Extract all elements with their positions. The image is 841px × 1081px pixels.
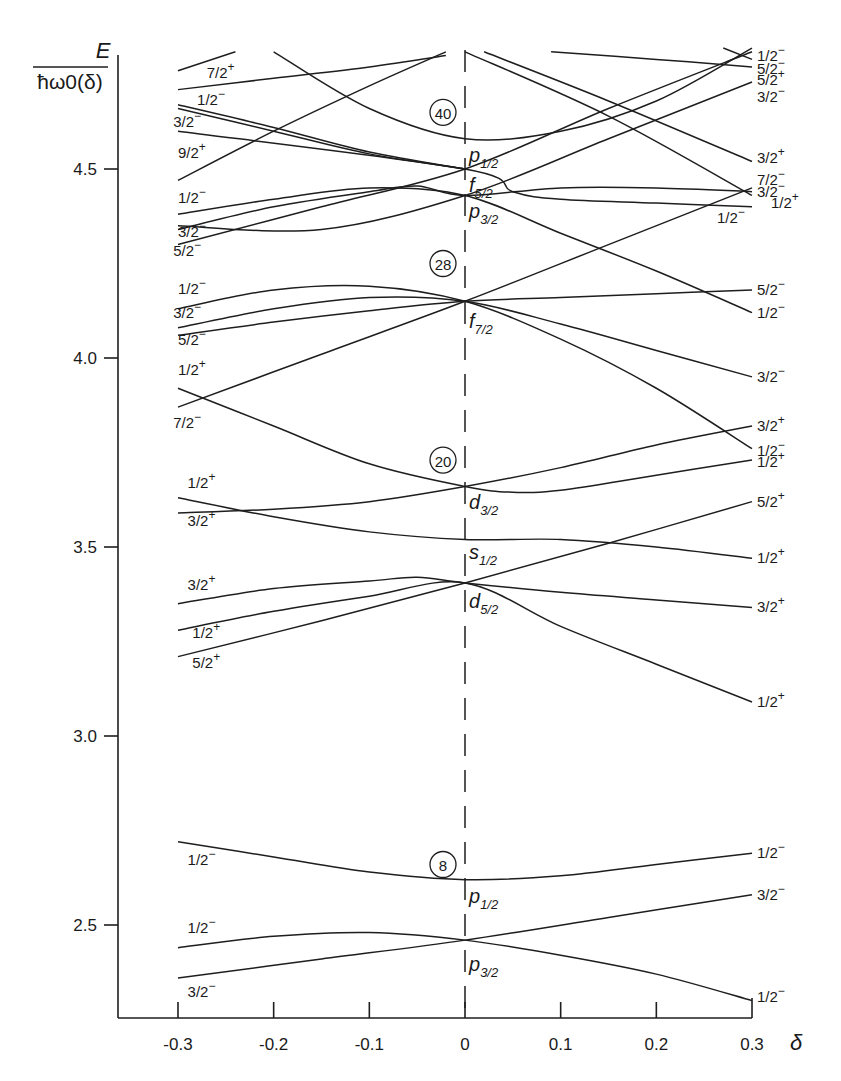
omega-label: 1/2−	[717, 205, 745, 226]
y-tick-label: 3.5	[73, 538, 97, 557]
omega-label: 1/2−	[757, 984, 785, 1005]
omega-label: 3/2−	[173, 109, 201, 130]
omega-label: 3/2−	[188, 979, 216, 1000]
y-tick-label: 3.0	[73, 727, 97, 746]
omega-label: 7/2+	[207, 60, 235, 81]
omega-label: 5/2−	[757, 277, 785, 298]
x-tick-label: 0.3	[740, 1035, 764, 1054]
y-axis-title: E ħω0(δ)	[33, 38, 111, 93]
omega-label: 1/2−	[757, 840, 785, 861]
orbital-label: d5/2	[469, 590, 499, 617]
y-tick-label: 4.0	[73, 349, 97, 368]
omega-label: 5/2−	[178, 327, 206, 348]
omega-label: 7/2−	[173, 410, 201, 431]
omega-label: 3/2−	[178, 219, 206, 240]
omega-label: 1/2+	[188, 470, 216, 491]
omega-label: 5/2−	[173, 238, 201, 259]
omega-label: 1/2−	[188, 915, 216, 936]
orbital-label: d3/2	[469, 491, 499, 518]
orbital-label: p3/2	[468, 953, 499, 980]
omega-label: 3/2+	[188, 508, 216, 529]
omega-label: 1/2+	[178, 357, 206, 378]
orbital-label: p1/2	[468, 885, 499, 912]
omega-label: 1/2−	[757, 300, 785, 321]
level-curve	[178, 109, 465, 169]
omega-label: 1/2+	[757, 689, 785, 710]
orbital-label: s1/2	[469, 541, 498, 568]
spherical-orbital-labels: p1/2p3/2d5/2s1/2d3/2f7/2p3/2f5/2p1/2	[468, 144, 499, 980]
y-tick-label: 4.5	[73, 160, 97, 179]
omega-label: 1/2−	[188, 847, 216, 868]
level-curve	[551, 52, 752, 67]
orbital-label: f7/2	[469, 310, 493, 337]
omega-label: 1/2+	[757, 449, 785, 470]
omega-label: 5/2+	[192, 650, 220, 671]
omega-label: 3/2+	[757, 594, 785, 615]
nilsson-diagram: E ħω0(δ) 2.53.03.54.04.5 -0.3-0.2-0.100.…	[0, 0, 841, 1081]
y-tick-label: 2.5	[73, 916, 97, 935]
omega-label: 5/2+	[757, 489, 785, 510]
omega-label: 9/2+	[178, 140, 206, 161]
omega-label: 3/2−	[757, 364, 785, 385]
omega-label: 3/2+	[757, 413, 785, 434]
omega-label: 1/2−	[178, 185, 206, 206]
omega-label: 1/2−	[178, 276, 206, 297]
y-axis-denominator: ħω0(δ)	[37, 70, 102, 93]
x-tick-label: -0.2	[259, 1035, 288, 1054]
omega-label: 1/2+	[757, 545, 785, 566]
x-ticks: -0.3-0.2-0.100.10.20.3	[163, 998, 763, 1054]
magic-number-label: 8	[439, 857, 447, 874]
x-tick-label: -0.3	[163, 1035, 192, 1054]
x-tick-label: 0.1	[549, 1035, 573, 1054]
level-curve	[178, 388, 752, 492]
omega-label: 1/2+	[771, 190, 799, 211]
omega-label: 3/2+	[757, 145, 785, 166]
magic-number-label: 40	[435, 105, 452, 122]
omega-label: 3/2−	[173, 300, 201, 321]
omega-label: 3/2−	[757, 84, 785, 105]
x-tick-label: -0.1	[355, 1035, 384, 1054]
omega-label: 1/2+	[192, 620, 220, 641]
y-axis-numerator: E	[96, 38, 111, 63]
x-axis-title: δ	[790, 1030, 803, 1055]
omega-label: 3/2−	[757, 882, 785, 903]
y-ticks: 2.53.03.54.04.5	[73, 160, 118, 935]
x-tick-label: 0.2	[645, 1035, 669, 1054]
magic-number-label: 20	[435, 453, 452, 470]
left-omega-labels: 7/2+1/2−3/2−9/2+1/2−3/2−5/2−1/2−3/2−5/2−…	[173, 60, 234, 1000]
x-tick-label: 0	[460, 1035, 469, 1054]
omega-label: 1/2−	[197, 87, 225, 108]
omega-label: 3/2+	[188, 572, 216, 593]
magic-number-label: 28	[435, 256, 452, 273]
right-omega-labels: 1/2−5/2−5/2+3/2−3/2+7/2−3/2−1/2+1/2−5/2−…	[717, 43, 799, 1005]
